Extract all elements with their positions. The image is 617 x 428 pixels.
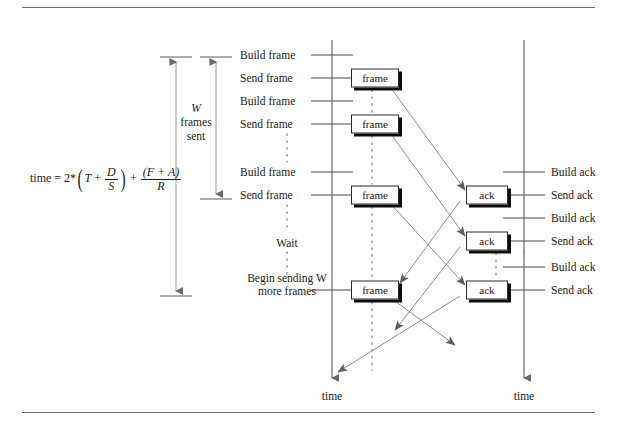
window-caption-line1: W — [191, 102, 201, 114]
sender-wait-label: Wait — [276, 237, 297, 250]
formula-frac1-denominator: S — [105, 179, 118, 193]
receiver-axis-label: time — [514, 390, 534, 403]
formula-plus-2: + — [130, 171, 137, 185]
frame-box-2: frame — [351, 186, 399, 205]
sender-event-label-5: Send frame — [240, 189, 293, 202]
window-caption-line3: sent — [187, 130, 206, 142]
frame-box-1: frame — [351, 115, 399, 134]
sender-event-label-1: Send frame — [240, 72, 293, 85]
diagram-vector-layer — [0, 0, 617, 428]
ack-box-2: ack — [466, 281, 508, 300]
time-formula: time = 2*(T + DS) + (F + A)R — [30, 165, 182, 193]
receiver-event-label-2: Build ack — [551, 212, 595, 225]
frame-transmission-arrows — [388, 84, 465, 345]
formula-frac1-numerator: D — [105, 166, 118, 179]
ack-box-1: ack — [466, 232, 508, 251]
receiver-event-label-3: Send ack — [551, 235, 593, 248]
formula-frac2-denominator: R — [141, 179, 182, 193]
sender-resume-label: Begin sending W more frames — [247, 272, 327, 297]
receiver-event-label-0: Build ack — [551, 166, 595, 179]
window-size-caption: W frames sent — [180, 101, 211, 143]
sender-event-label-3: Send frame — [240, 118, 293, 131]
sender-resume-line2: more frames — [258, 285, 316, 297]
formula-equals: = — [54, 171, 61, 185]
receiver-event-label-5: Send ack — [551, 284, 593, 297]
formula-coefficient: 2* — [64, 171, 76, 185]
receiver-event-label-1: Send ack — [551, 189, 593, 202]
formula-paren-open: ( — [78, 165, 83, 193]
formula-frac2-numerator: (F + A) — [141, 166, 182, 179]
window-caption-line2: frames — [180, 116, 211, 128]
sender-resume-line1: Begin sending W — [247, 272, 327, 284]
formula-plus-1: + — [94, 171, 101, 185]
formula-lhs: time — [30, 171, 51, 185]
formula-fraction-FAR: (F + A)R — [141, 166, 182, 192]
formula-fraction-DS: DS — [105, 166, 118, 192]
sender-event-label-2: Build frame — [240, 95, 295, 108]
sender-event-label-4: Build frame — [240, 166, 295, 179]
formula-paren-close: ) — [120, 165, 125, 193]
frame-box-0: frame — [351, 69, 399, 88]
sender-axis-label: time — [322, 390, 342, 403]
receiver-event-label-4: Build ack — [551, 261, 595, 274]
ack-box-0: ack — [466, 186, 508, 205]
sender-event-label-0: Build frame — [240, 49, 295, 62]
frame-box-3: frame — [351, 281, 399, 300]
figure-canvas: time = 2*(T + DS) + (F + A)R W frames se… — [0, 0, 617, 428]
formula-term-T: T — [84, 171, 91, 185]
